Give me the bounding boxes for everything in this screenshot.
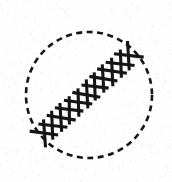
stitch-stroke xyxy=(128,41,130,70)
figure-root: Dashed circle with diagonal cross-stitch… xyxy=(0,0,172,182)
stitched-circle-figure xyxy=(0,0,172,182)
stitch-stroke xyxy=(86,79,88,108)
